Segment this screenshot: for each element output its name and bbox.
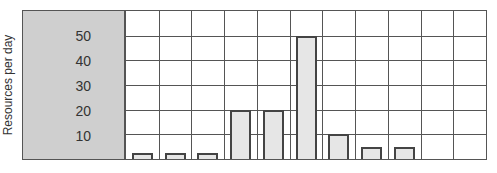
- bar-2: [165, 153, 186, 159]
- bar-1: [132, 153, 153, 159]
- y-tick-20: 20: [75, 103, 91, 119]
- bar-3: [197, 153, 218, 159]
- bar-4: [230, 110, 251, 159]
- gridline-vertical: [191, 11, 192, 159]
- bar-7: [328, 134, 349, 159]
- gridline-vertical: [453, 11, 454, 159]
- gridline-vertical: [355, 11, 356, 159]
- bar-8: [361, 147, 382, 159]
- y-tick-30: 30: [75, 78, 91, 94]
- gridline-vertical: [421, 11, 422, 159]
- y-axis-panel: 50 40 30 20 10: [22, 10, 125, 160]
- y-tick-10: 10: [75, 128, 91, 144]
- y-tick-50: 50: [75, 28, 91, 44]
- gridline-vertical: [159, 11, 160, 159]
- y-tick-40: 40: [75, 53, 91, 69]
- bar-6: [296, 36, 317, 159]
- bar-9: [394, 147, 415, 159]
- gridline-vertical: [257, 11, 258, 159]
- gridline-vertical: [322, 11, 323, 159]
- gridline-vertical: [224, 11, 225, 159]
- gridline-vertical: [290, 11, 291, 159]
- gridline-vertical: [388, 11, 389, 159]
- y-axis-label: Resources per day: [1, 35, 15, 136]
- plot-area: [125, 10, 487, 160]
- bar-5: [263, 110, 284, 159]
